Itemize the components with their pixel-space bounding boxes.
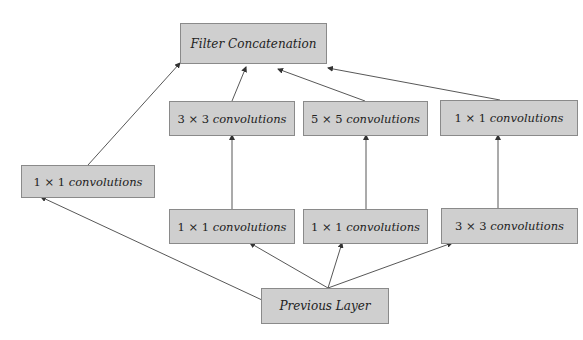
kernel-size: 3 × 3 — [177, 112, 209, 126]
conv-label: convolutions — [490, 219, 564, 233]
filter-concatenation-box: Filter Concatenation — [180, 23, 327, 64]
pool-projection-1x1-box: 1 × 1 convolutions — [21, 165, 155, 198]
arrow-1x1-to-concat — [328, 68, 500, 100]
conv-label: convolutions — [346, 220, 420, 234]
arrow-prev-to-reduce-b — [328, 243, 342, 288]
kernel-size: 1 × 1 — [454, 111, 486, 125]
reduce-1x1-a-box: 1 × 1 convolutions — [169, 209, 295, 244]
arrow-left-1x1-to-concat — [88, 63, 180, 165]
previous-layer-box: Previous Layer — [261, 288, 389, 324]
kernel-size: 1 × 1 — [311, 220, 343, 234]
conv-3x3-box: 3 × 3 convolutions — [169, 101, 295, 136]
conv-label: convolutions — [213, 112, 287, 126]
kernel-size: 1 × 1 — [33, 175, 65, 189]
reduce-1x1-b-box: 1 × 1 convolutions — [303, 209, 428, 244]
conv-label: convolutions — [213, 220, 287, 234]
previous-layer-label: Previous Layer — [279, 299, 370, 313]
pool-3x3-box: 3 × 3 convolutions — [441, 208, 578, 244]
conv-label: convolutions — [490, 111, 564, 125]
arrow-prev-to-reduce-a — [250, 243, 328, 288]
inception-diagram: Filter Concatenation 1 × 1 convolutions … — [0, 0, 583, 340]
conv-1x1-top-box: 1 × 1 convolutions — [440, 100, 578, 136]
kernel-size: 3 × 3 — [455, 219, 487, 233]
arrow-5x5-to-concat — [278, 69, 365, 101]
kernel-size: 5 × 5 — [311, 112, 343, 126]
conv-5x5-box: 5 × 5 convolutions — [303, 101, 428, 136]
kernel-size: 1 × 1 — [177, 220, 209, 234]
arrow-prev-to-pool — [328, 243, 452, 288]
filter-concatenation-label: Filter Concatenation — [191, 37, 317, 51]
conv-label: convolutions — [69, 175, 143, 189]
conv-label: convolutions — [346, 112, 420, 126]
arrow-3x3-to-concat — [232, 67, 246, 101]
